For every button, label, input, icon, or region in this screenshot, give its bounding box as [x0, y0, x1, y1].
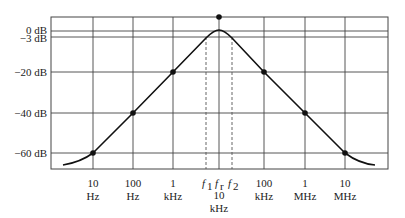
x-label-unit: Hz [127, 190, 140, 202]
x-label-unit: kHz [255, 190, 273, 202]
vertical-gridlines [93, 17, 345, 169]
x-label-unit: MHz [334, 190, 357, 202]
y-axis-labels: 0 dB −3 dB −20 dB −40 dB −60 dB [14, 24, 47, 159]
x-label-unit: Hz [87, 190, 100, 202]
f1-subscript: 1 [207, 180, 213, 192]
x-label-unit: kHz [164, 190, 182, 202]
frequency-annotations: f 1 f r f 2 [202, 177, 239, 192]
fr-subscript: r [220, 180, 224, 192]
horizontal-gridlines [51, 31, 388, 153]
y-label-20db: −20 dB [14, 66, 47, 78]
y-label-3db: −3 dB [20, 32, 47, 44]
x-label-unit: MHz [294, 190, 317, 202]
x-label-value: 1 [170, 177, 176, 189]
x-label-value: 100 [256, 177, 273, 189]
y-label-40db: −40 dB [14, 107, 47, 119]
x-label-value: 10 [340, 177, 352, 189]
x-label-value: 10 [88, 177, 100, 189]
f2-subscript: 2 [233, 180, 239, 192]
x-label-value: 100 [125, 177, 142, 189]
x-label-value: 1 [302, 177, 308, 189]
bandpass-response-chart: 0 dB −3 dB −20 dB −40 dB −60 dB 10 Hz 10… [0, 0, 405, 218]
x-label-unit: kHz [210, 202, 228, 214]
y-label-60db: −60 dB [14, 147, 47, 159]
